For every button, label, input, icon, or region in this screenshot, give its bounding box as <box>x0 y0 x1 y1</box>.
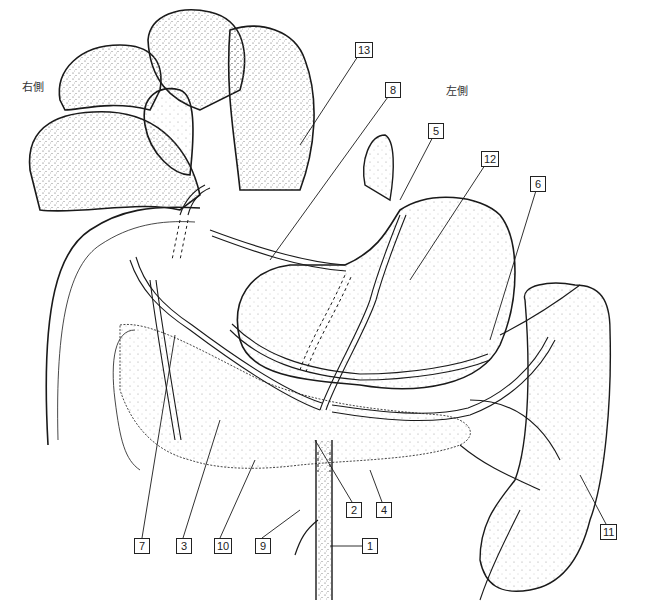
esophagus <box>364 135 394 200</box>
callout-13: 13 <box>355 42 373 58</box>
callout-5: 5 <box>428 123 444 139</box>
callout-6: 6 <box>530 176 546 192</box>
liver-lobe-upper-right <box>229 26 314 190</box>
callout-2: 2 <box>346 502 362 518</box>
callout-4: 4 <box>376 502 392 518</box>
callout-8: 8 <box>385 82 401 98</box>
liver <box>30 10 315 211</box>
liver-lobe-upper-left <box>59 45 161 110</box>
callout-3: 3 <box>176 538 192 554</box>
callout-7: 7 <box>134 538 150 554</box>
celiac-trunk-branch <box>295 520 318 555</box>
right-side-label: 右側 <box>22 78 44 94</box>
right-gastric-artery <box>210 230 345 265</box>
left-side-label: 左側 <box>446 82 468 98</box>
anatomy-diagram <box>0 0 647 614</box>
callout-10: 10 <box>214 538 232 554</box>
callout-1: 1 <box>362 538 378 554</box>
callout-9: 9 <box>255 538 271 554</box>
callout-12: 12 <box>481 151 499 167</box>
callout-11: 11 <box>600 524 617 540</box>
